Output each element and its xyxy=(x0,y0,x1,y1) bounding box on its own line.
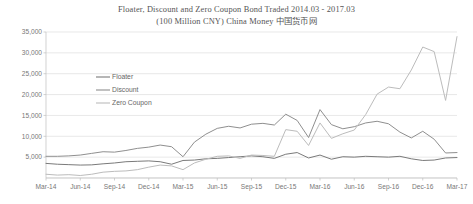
x-tick-label: Sep-16 xyxy=(378,183,400,191)
x-tick-label: Sep-15 xyxy=(241,183,263,191)
x-tick-label: Mar-17 xyxy=(447,183,468,190)
legend-label-floater[interactable]: Floater xyxy=(112,73,134,80)
x-tick-label: Sep-14 xyxy=(104,183,126,191)
x-tick-label: Dec-16 xyxy=(412,183,434,190)
y-tick-label: 5,000 xyxy=(25,153,42,160)
chart-legend[interactable]: FloaterDiscountZero Coupon xyxy=(96,73,152,107)
y-tick-label: 20,000 xyxy=(22,91,43,98)
data-series-lines xyxy=(46,37,457,176)
y-tick-label: 10,000 xyxy=(22,133,43,140)
x-tick-label: Mar-15 xyxy=(173,183,194,190)
x-tick-label: Jun-14 xyxy=(70,183,90,190)
y-axis-tick-labels: 5,00010,00015,00020,00025,00030,00035,00… xyxy=(22,28,46,160)
x-axis-tick-labels: Mar-14Jun-14Sep-14Dec-14Mar-15Jun-15Sep-… xyxy=(36,178,468,191)
y-tick-label: 30,000 xyxy=(22,49,43,56)
x-tick-label: Dec-14 xyxy=(138,183,160,190)
legend-label-zero-coupon[interactable]: Zero Coupon xyxy=(112,99,152,107)
x-tick-label: Jun-16 xyxy=(344,183,364,190)
x-tick-label: Jun-15 xyxy=(207,183,227,190)
legend-label-discount[interactable]: Discount xyxy=(112,86,139,93)
chart-plot-area: 5,00010,00015,00020,00025,00030,00035,00… xyxy=(0,0,473,204)
x-tick-label: Mar-14 xyxy=(36,183,57,190)
bond-trading-line-chart: Floater, Discount and Zero Coupon Bond T… xyxy=(0,0,473,204)
series-line-discount xyxy=(46,110,457,157)
series-line-zero-coupon xyxy=(46,37,457,176)
series-line-floater xyxy=(46,153,457,166)
y-tick-label: 15,000 xyxy=(22,112,43,119)
y-tick-label: 35,000 xyxy=(22,28,43,35)
x-tick-label: Mar-16 xyxy=(310,183,331,190)
x-tick-label: Dec-15 xyxy=(275,183,297,190)
y-tick-label: 25,000 xyxy=(22,70,43,77)
